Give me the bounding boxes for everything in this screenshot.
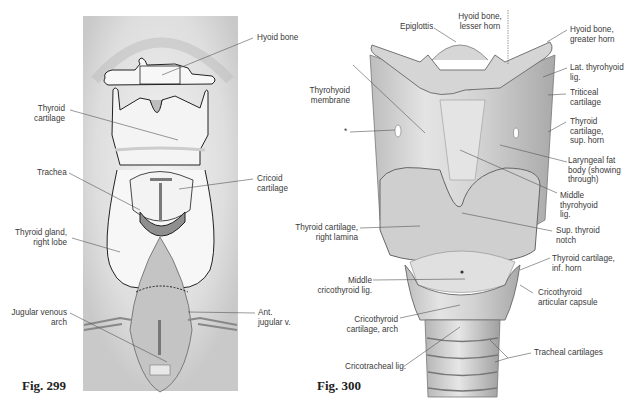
label-hyoid-greater-horn: Hyoid bone, greater horn — [570, 25, 615, 44]
label-tracheal-cartilages: Tracheal cartilages — [534, 348, 603, 358]
label-thyrohyoid-membrane: Thyrohyoid membrane — [300, 86, 350, 105]
label-triticeal-cartilage: Triticeal cartilage — [570, 88, 601, 107]
label-cricothyroid-arch: Cricothyroid cartilage, arch — [330, 315, 398, 334]
figure-number-299: Fig. 299 — [22, 378, 66, 394]
label-thyroid-cartilage: Thyroid cartilage — [20, 104, 65, 123]
label-thyroid-gland: Thyroid gland, right lobe — [5, 228, 67, 247]
label-middle-cricothyroid-lig: Middle cricothyroid lig. — [300, 276, 372, 295]
label-ant-jugular-v: Ant. jugular v. — [258, 308, 291, 327]
label-trachea: Trachea — [37, 168, 67, 178]
label-jugular-venous-arch: Jugular venous arch — [5, 308, 67, 327]
label-sup-thyroid-notch: Sup. thyroid notch — [556, 226, 600, 245]
label-laryngeal-fat-body: Laryngeal fat body (showing through) — [568, 156, 621, 185]
label-cricothyroid-capsule: Cricothyroid articular capsule — [538, 288, 598, 307]
label-epiglottis: Epiglottis — [400, 22, 433, 32]
label-thyroid-right-lamina: Thyroid cartilage, right lamina — [290, 223, 358, 242]
label-cricoid-cartilage: Cricoid cartilage — [257, 174, 288, 193]
label-middle-thyrohyoid-lig: Middle thyrohyoid lig. — [560, 191, 598, 220]
label-asterisk: * — [344, 127, 347, 137]
figure-number-300: Fig. 300 — [317, 378, 361, 394]
figure-page: Hyoid bone Thyroid cartilage Trachea Cri… — [0, 0, 632, 413]
fig-300-illustration — [370, 42, 555, 397]
label-thyroid-sup-horn: Thyroid cartilage, sup. horn — [570, 117, 604, 146]
label-hyoid-bone: Hyoid bone — [257, 33, 298, 43]
label-thyroid-inf-horn: Thyroid cartilage, inf. horn — [552, 254, 615, 273]
label-hyoid-lesser-horn: Hyoid bone, lesser horn — [455, 12, 505, 31]
label-cricotracheal-lig: Cricotracheal lig. — [345, 362, 406, 372]
label-lat-thyrohyoid-lig: Lat. thyrohyoid lig. — [570, 63, 624, 82]
fig-299-illustration — [83, 16, 238, 392]
